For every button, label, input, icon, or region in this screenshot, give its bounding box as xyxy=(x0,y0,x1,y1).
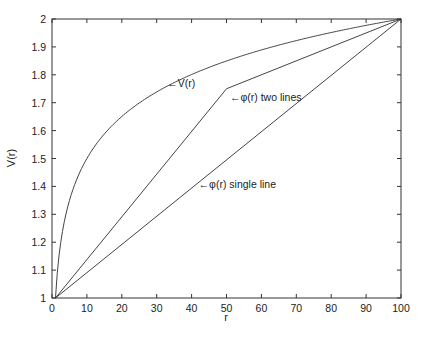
y-tick-label: 1.3 xyxy=(31,208,46,220)
annotation-label: ←φ(r) single line xyxy=(199,178,277,190)
x-axis-label: r xyxy=(224,311,228,323)
y-tick-label: 1.1 xyxy=(31,264,46,276)
y-axis-label: V(r) xyxy=(5,149,17,167)
y-tick-label: 1.4 xyxy=(31,180,46,192)
annotation-label: ←φ(r) two lines xyxy=(230,91,302,103)
x-tick-label: 30 xyxy=(151,302,163,314)
x-tick-label: 10 xyxy=(81,302,93,314)
y-tick-label: 1.5 xyxy=(31,153,46,165)
x-tick-label: 80 xyxy=(325,302,337,314)
line-chart: 0102030405060708090100 11.11.21.31.41.51… xyxy=(0,0,425,339)
x-tick-label: 100 xyxy=(392,302,410,314)
y-tick-label: 1.2 xyxy=(31,236,46,248)
y-tick-label: 1.7 xyxy=(31,97,46,109)
y-tick-label: 1.8 xyxy=(31,69,46,81)
x-tick-label: 40 xyxy=(186,302,198,314)
x-axis-ticks: 0102030405060708090100 xyxy=(49,19,410,314)
x-tick-label: 70 xyxy=(290,302,302,314)
x-tick-label: 90 xyxy=(360,302,372,314)
x-tick-label: 0 xyxy=(49,302,55,314)
y-tick-label: 1.6 xyxy=(31,125,46,137)
y-tick-label: 1.9 xyxy=(31,41,46,53)
x-tick-label: 60 xyxy=(256,302,268,314)
annotation-label: ←V(r) xyxy=(167,77,195,89)
annotations: ←V(r)←φ(r) two lines←φ(r) single line xyxy=(167,77,301,189)
x-tick-label: 20 xyxy=(116,302,128,314)
plot-curves xyxy=(55,19,401,298)
y-tick-label: 2 xyxy=(40,13,46,25)
y-tick-label: 1 xyxy=(40,292,46,304)
